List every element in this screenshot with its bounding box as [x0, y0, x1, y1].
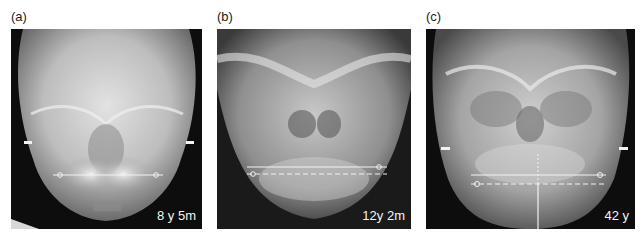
panel-label-a: (a) [11, 9, 27, 24]
skull-radiograph-image-a [11, 29, 202, 229]
age-label-c: 42 y [604, 208, 629, 223]
panel-label-c: (c) [426, 9, 441, 24]
panel-label-b: (b) [217, 9, 233, 24]
age-label-b: 12y 2m [362, 208, 405, 223]
age-label-a: 8 y 5m [157, 208, 196, 223]
radiograph-panel-a: 8 y 5m [11, 29, 202, 229]
skull-radiograph-image-c [426, 29, 635, 229]
film-corner-artifact [11, 219, 39, 229]
tick-marker-left [441, 147, 450, 150]
radiograph-panel-b: 12y 2m [217, 29, 411, 229]
radiograph-panel-c: 42 y [426, 29, 635, 229]
tick-marker-right [186, 141, 194, 144]
skull-radiograph-image-b [217, 29, 411, 229]
tick-marker-right [619, 147, 628, 150]
tick-marker-left [24, 141, 32, 144]
